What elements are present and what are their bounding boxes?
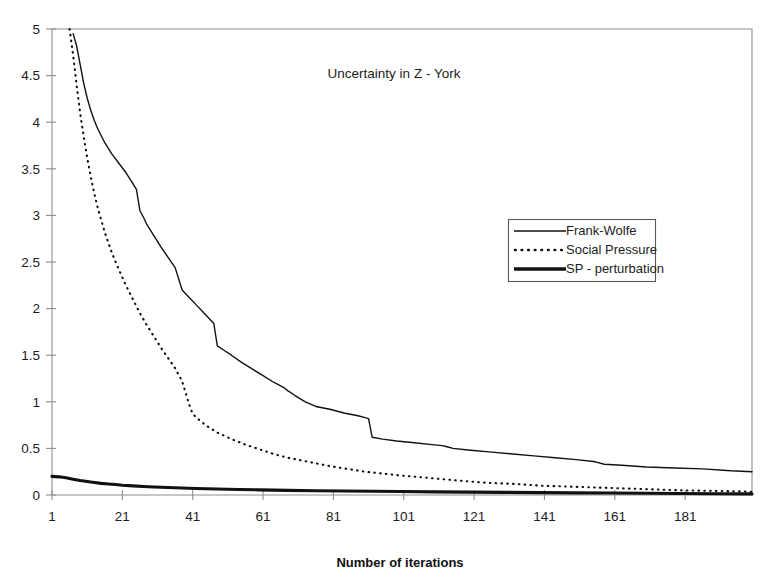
chart-plot-svg: 00.511.522.533.544.55 121416181101121141… [0, 0, 769, 582]
series-path-sp-perturbation [52, 476, 752, 494]
x-tick-label: 101 [392, 509, 415, 524]
chart-legend: Frank-Wolfe Social Pressure SP - perturb… [509, 220, 665, 282]
y-tick-label: 1 [32, 395, 40, 410]
y-tick-label: 0.5 [21, 441, 40, 456]
y-tick-label: 0 [32, 488, 40, 503]
y-tick-label: 4.5 [21, 68, 40, 83]
chart-figure: 00.511.522.533.544.55 121416181101121141… [0, 0, 769, 582]
x-tick-label: 21 [115, 509, 130, 524]
x-axis-title: Number of iterations [336, 555, 463, 570]
y-tick-label: 2.5 [21, 255, 40, 270]
y-tick-label: 2 [32, 301, 40, 316]
x-tick-label: 121 [463, 509, 486, 524]
x-tick-label: 81 [326, 509, 341, 524]
x-tick-label: 41 [185, 509, 200, 524]
y-tick-label: 5 [32, 22, 40, 37]
x-tick-label: 1 [48, 509, 56, 524]
y-tick-label: 3 [32, 208, 40, 223]
legend-label-sp-perturbation: SP - perturbation [566, 261, 664, 276]
chart-title: Uncertainty in Z - York [328, 66, 461, 81]
y-tick-label: 1.5 [21, 348, 40, 363]
legend-label-frank-wolfe: Frank-Wolfe [566, 223, 637, 238]
x-tick-label: 181 [674, 509, 697, 524]
y-axis-ticks: 00.511.522.533.544.55 [21, 22, 56, 503]
x-tick-label: 161 [604, 509, 627, 524]
x-tick-label: 61 [256, 509, 271, 524]
y-tick-label: 3.5 [21, 162, 40, 177]
y-tick-label: 4 [32, 115, 40, 130]
legend-label-social-pressure: Social Pressure [566, 242, 657, 257]
x-tick-label: 141 [533, 509, 556, 524]
